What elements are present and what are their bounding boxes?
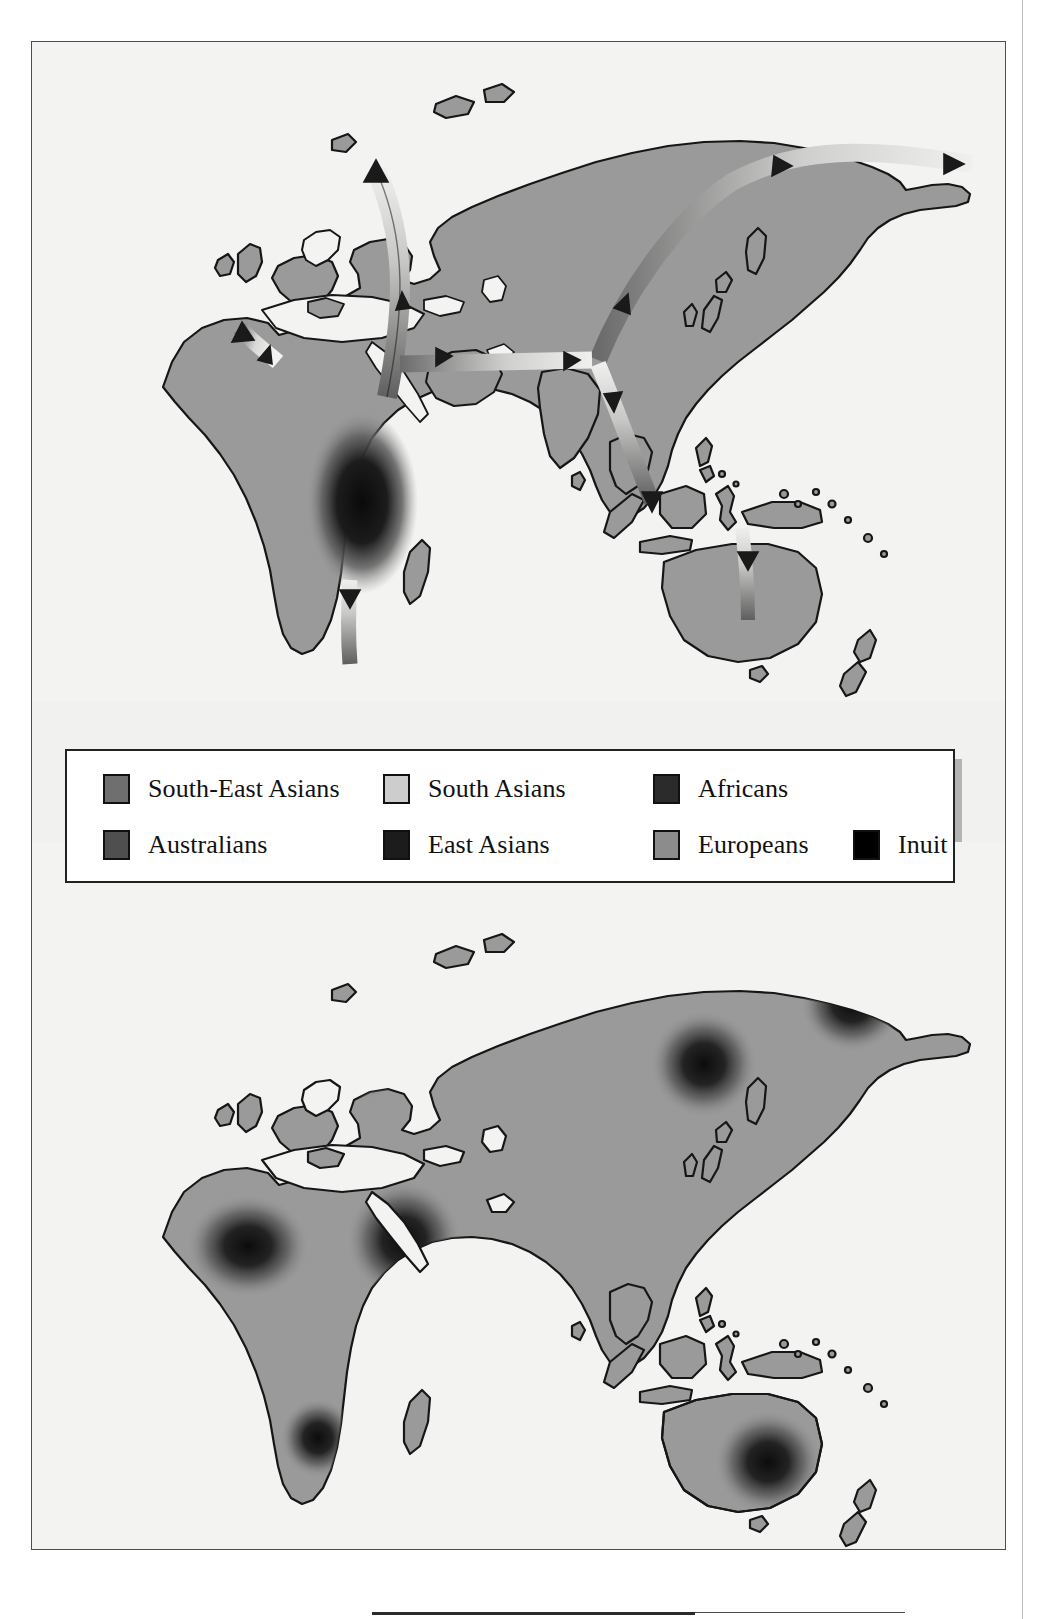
pacific-island	[881, 551, 887, 557]
legend-label-australians: Australians	[148, 830, 268, 860]
pacific-island	[734, 482, 739, 487]
pacific-island-bottom	[864, 1384, 872, 1392]
legend-label-south-east-asians: South-East Asians	[148, 774, 340, 804]
legend-box: South-East Asians South Asians Africans …	[65, 749, 955, 883]
borneo	[660, 486, 706, 528]
pacific-island-bottom	[780, 1340, 788, 1348]
figure-frame: South-East Asians South Asians Africans …	[31, 41, 1006, 1550]
pacific-island-bottom	[795, 1351, 801, 1357]
legend-item-south-east-asians[interactable]: South-East Asians	[103, 774, 383, 804]
legend-row-1: South-East Asians South Asians Africans	[67, 761, 953, 817]
pacific-island	[845, 517, 851, 523]
pacific-island	[780, 490, 788, 498]
pacific-island	[795, 501, 801, 507]
pacific-island	[829, 501, 836, 508]
footer-rule-thin	[695, 1612, 905, 1613]
borneo-bottom	[660, 1336, 706, 1378]
legend-item-south-asians[interactable]: South Asians	[383, 774, 653, 804]
pacific-island-bottom	[813, 1339, 819, 1345]
swatch-europeans	[653, 830, 680, 860]
pacific-island-bottom	[719, 1321, 725, 1327]
bottom-map-panel	[32, 842, 1006, 1550]
bottom-map-graphic	[32, 842, 1006, 1550]
legend-item-africans[interactable]: Africans	[653, 774, 853, 804]
page-edge-rule	[1022, 0, 1023, 1619]
caspian-sea-bottom	[482, 1126, 506, 1152]
top-map-panel	[32, 42, 1006, 702]
swatch-australians	[103, 830, 130, 860]
pacific-island-bottom	[829, 1351, 836, 1358]
legend-item-east-asians[interactable]: East Asians	[383, 830, 653, 860]
swatch-south-asians	[383, 774, 410, 804]
legend-label-europeans: Europeans	[698, 830, 809, 860]
pacific-island-bottom	[845, 1367, 851, 1373]
pacific-island	[813, 489, 819, 495]
legend-item-inuit[interactable]: Inuit	[853, 830, 948, 860]
pacific-island-bottom	[881, 1401, 887, 1407]
legend-label-south-asians: South Asians	[428, 774, 566, 804]
african-origin-blob	[306, 410, 418, 594]
top-map-graphic	[32, 42, 1006, 702]
blob-north-west-africa	[186, 1194, 310, 1298]
swatch-south-east-asians	[103, 774, 130, 804]
pacific-island	[864, 534, 872, 542]
legend-label-inuit: Inuit	[898, 830, 948, 860]
swatch-inuit	[853, 830, 880, 860]
legend-row-2: Australians East Asians Europeans Inuit	[67, 817, 953, 873]
footer-rule	[372, 1612, 695, 1615]
black-sea-bottom	[424, 1146, 464, 1166]
pacific-island-bottom	[734, 1332, 739, 1337]
legend-item-australians[interactable]: Australians	[103, 830, 383, 860]
swatch-east-asians	[383, 830, 410, 860]
pacific-island	[719, 471, 725, 477]
legend-label-africans: Africans	[698, 774, 788, 804]
swatch-africans	[653, 774, 680, 804]
legend-label-east-asians: East Asians	[428, 830, 550, 860]
legend-item-europeans[interactable]: Europeans	[653, 830, 853, 860]
blob-east-asia	[650, 1010, 758, 1118]
arrow-to-australia	[742, 528, 748, 620]
